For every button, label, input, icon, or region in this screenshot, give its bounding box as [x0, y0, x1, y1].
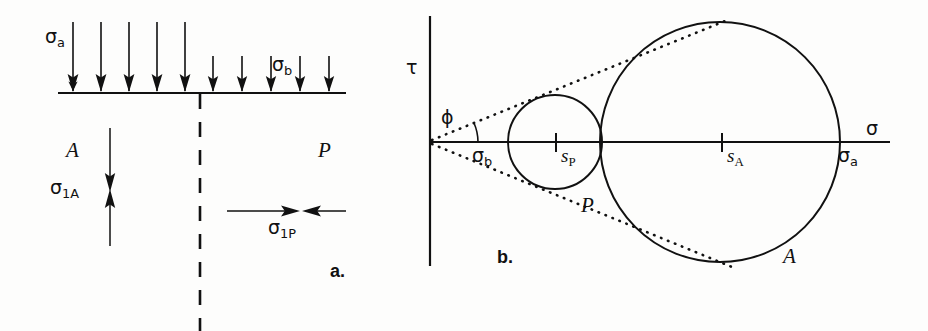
- label-tau-axis: τ: [406, 58, 417, 77]
- panel-b-geometry: [0, 0, 928, 331]
- label-sigma-a-mohr: σa: [838, 146, 858, 165]
- label-sigma-axis: σ: [866, 119, 878, 138]
- label-sp: sP: [561, 146, 576, 165]
- label-circle-passive: P: [581, 195, 594, 216]
- panel-b-tag: b.: [497, 248, 513, 266]
- label-sigma-b-mohr: σb: [472, 146, 492, 165]
- label-sa: sA: [727, 146, 744, 165]
- figure-root: σa σb A P σ1A σ1P a. τ σ ϕ σb σa: [0, 0, 928, 331]
- friction-angle-arc: [474, 123, 478, 142]
- failure-envelope-upper: [432, 19, 730, 140]
- label-friction-angle: ϕ: [441, 108, 454, 127]
- label-circle-active: A: [783, 246, 796, 267]
